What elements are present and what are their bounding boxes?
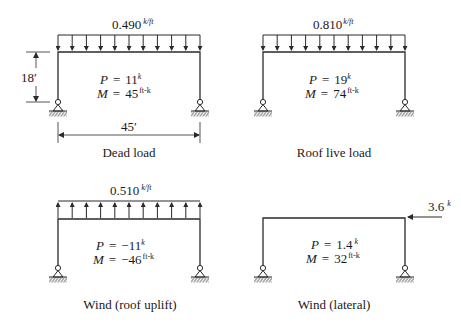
pin-support-left-icon	[49, 99, 67, 116]
span-dimension: 45′	[58, 119, 200, 143]
panel-wind-lateral: 3.6k P=1.4k M=32ft-k Wind (lateral)	[254, 199, 451, 312]
load-value: 0.810k/ft	[313, 17, 354, 32]
axial-force: P=11k	[99, 72, 142, 87]
pin-support-left-icon	[254, 99, 272, 116]
moment: M=−46ft-k	[92, 252, 154, 267]
pin-support-right-icon	[191, 265, 209, 282]
distributed-load-down	[58, 35, 200, 50]
frame-load-cases-diagram: 0.490k/ft 18′ 45′ P=11k M=45ft-k Dead lo…	[0, 0, 461, 323]
pin-support-left-icon	[49, 265, 67, 282]
point-load-value: 3.6k	[428, 199, 451, 214]
load-value: 0.490k/ft	[112, 17, 154, 32]
panel-wind-roof-uplift: 0.510k/ft P=−11k M=−46ft-k Wind (roof up…	[49, 183, 209, 312]
pin-support-right-icon	[396, 265, 414, 282]
axial-force: P=19k	[308, 72, 351, 87]
moment: M=45ft-k	[96, 86, 151, 101]
svg-text:45′: 45′	[121, 119, 137, 134]
panel-dead-load: 0.490k/ft 18′ 45′ P=11k M=45ft-k Dead lo…	[21, 17, 209, 160]
moment: M=74ft-k	[304, 86, 359, 101]
pin-support-right-icon	[396, 99, 414, 116]
distributed-load-down	[263, 35, 405, 50]
caption: Dead load	[102, 145, 156, 160]
axial-force: P=1.4k	[310, 237, 359, 252]
svg-text:18′: 18′	[21, 70, 37, 85]
moment: M=32ft-k	[305, 251, 360, 266]
caption: Roof live load	[297, 145, 372, 160]
height-dimension: 18′	[21, 52, 50, 102]
caption: Wind (roof uplift)	[83, 297, 176, 312]
load-value: 0.510k/ft	[110, 183, 152, 198]
panel-roof-live-load: 0.810k/ft P=19k M=74ft-k Roof live load	[254, 17, 414, 160]
distributed-load-up	[58, 201, 200, 218]
axial-force: P=−11k	[95, 238, 145, 253]
pin-support-right-icon	[191, 99, 209, 116]
pin-support-left-icon	[254, 265, 272, 282]
caption: Wind (lateral)	[298, 297, 371, 312]
